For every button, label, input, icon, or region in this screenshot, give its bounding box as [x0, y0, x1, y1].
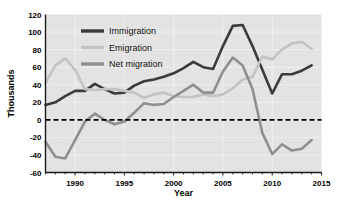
- legend-label-immigration: Immigration: [109, 26, 156, 36]
- y-axis-tick-label: 20: [33, 98, 42, 107]
- y-axis-tick-label: -60: [30, 169, 42, 178]
- y-axis-tick-label: 0: [37, 116, 42, 125]
- legend-label-net-migration: Net migration: [109, 59, 163, 69]
- y-axis-tick-label: 60: [33, 63, 42, 72]
- y-axis-tick-label: -40: [30, 151, 42, 160]
- x-axis-tick-label: 1995: [115, 179, 133, 188]
- y-axis-tick-label: 100: [28, 28, 42, 37]
- y-axis-title: Thousands: [6, 69, 16, 117]
- x-axis-title: Year: [174, 188, 194, 198]
- y-axis-tick-label: 40: [33, 81, 42, 90]
- y-axis-tick-label: -20: [30, 133, 42, 142]
- legend-label-emigration: Emigration: [109, 43, 152, 53]
- chart-canvas: 120100806040200-20-40-601990199520002005…: [0, 0, 342, 215]
- x-axis-tick-label: 2000: [165, 179, 183, 188]
- migration-line-chart: 120100806040200-20-40-601990199520002005…: [0, 0, 342, 215]
- plot-background: [46, 15, 322, 173]
- y-axis-tick-label: 80: [33, 46, 42, 55]
- x-axis-tick-label: 2005: [214, 179, 232, 188]
- y-axis-tick-label: 120: [28, 11, 42, 20]
- x-axis-tick-label: 2010: [263, 179, 281, 188]
- x-axis-tick-label: 1990: [66, 179, 84, 188]
- x-axis-tick-label: 2015: [313, 179, 331, 188]
